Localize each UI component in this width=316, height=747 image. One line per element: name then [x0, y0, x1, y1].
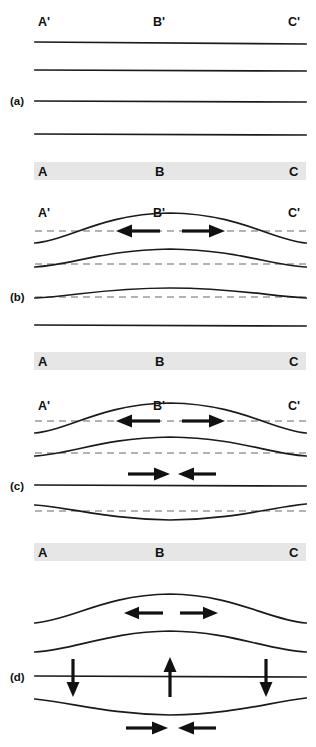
diagram-canvas: A' B' C' (a) A B C A' B' C' (b): [0, 0, 316, 747]
panel-b-label-a: A: [38, 354, 48, 369]
panel-d-layer-4: [35, 698, 306, 715]
panel-c-layer-1: [35, 403, 306, 433]
panel-d-compression-left-arrow: [178, 722, 216, 735]
panel-b-label-c-prime: C': [288, 206, 300, 220]
panel-d-extension-right-arrow: [180, 607, 218, 619]
panel-a-label-a-prime: A': [38, 15, 50, 29]
panel-a-label-c: C: [289, 164, 299, 179]
panel-c-compression-left-arrow: [178, 468, 216, 481]
panel-d-layer-1: [35, 594, 306, 623]
panel-c-compression-right-arrow: [128, 468, 170, 481]
panel-c-label-b: B: [155, 545, 164, 560]
panel-c: A' B' C' (c): [10, 399, 306, 561]
panel-d-compression-right-arrow: [126, 722, 168, 735]
panel-c-layer-4: [35, 504, 306, 520]
panel-a-label-c-prime: C': [288, 15, 300, 29]
panel-a: A' B' C' (a) A B C: [10, 15, 306, 180]
panel-b-caption: (b): [10, 291, 25, 303]
panel-d-caption: (d): [10, 671, 25, 683]
panel-a-caption: (a): [10, 95, 24, 107]
panel-c-layer-3: [35, 485, 306, 486]
panel-d-extension-left-arrow: [124, 607, 163, 619]
panel-c-caption: (c): [10, 480, 24, 492]
panel-d-layer-2: [35, 631, 306, 652]
panel-a-label-a: A: [38, 164, 48, 179]
panel-a-layer-4: [35, 134, 306, 135]
panel-b-label-c: C: [289, 354, 299, 369]
panel-b-basement-band: [34, 352, 306, 370]
panel-a-layer-1: [35, 42, 306, 44]
panel-b-extension-left-arrow: [116, 225, 160, 238]
panel-c-label-a-prime: A': [38, 399, 50, 413]
panel-d: (d): [10, 594, 306, 735]
panel-a-layer-3: [35, 101, 306, 102]
figure-root: A' B' C' (a) A B C A' B' C' (b): [0, 0, 316, 747]
panel-b-layer-1: [35, 213, 306, 243]
panel-b-label-b: B: [155, 354, 164, 369]
panel-a-label-b: B: [155, 164, 164, 179]
panel-d-subsidence-right-arrow: [260, 659, 273, 697]
panel-b-label-a-prime: A': [38, 206, 50, 220]
panel-c-label-c-prime: C': [288, 399, 300, 413]
panel-b-layer-4: [35, 325, 306, 326]
panel-b: A' B' C' (b) A B C: [10, 206, 306, 370]
panel-d-subsidence-left-arrow: [67, 659, 80, 697]
panel-c-basement-band: [34, 543, 306, 561]
panel-a-basement-band: [34, 162, 306, 180]
panel-b-extension-right-arrow: [182, 225, 225, 238]
panel-c-label-a: A: [38, 545, 48, 560]
panel-a-label-b-prime: B': [153, 15, 165, 29]
panel-a-layer-2: [35, 70, 306, 71]
panel-c-extension-right-arrow: [182, 415, 225, 428]
panel-c-label-b-prime: B': [153, 399, 165, 413]
panel-c-extension-left-arrow: [116, 415, 160, 428]
panel-c-label-c: C: [289, 545, 299, 560]
